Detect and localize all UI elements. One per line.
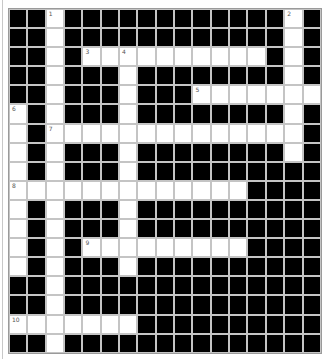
crossword-cell[interactable] bbox=[120, 316, 136, 333]
crossword-cell[interactable] bbox=[83, 316, 99, 333]
crossword-cell[interactable] bbox=[47, 296, 63, 313]
crossword-cell[interactable] bbox=[47, 67, 63, 84]
crossword-cell[interactable] bbox=[285, 105, 301, 122]
block-cell bbox=[10, 296, 26, 313]
crossword-cell[interactable] bbox=[47, 316, 63, 333]
crossword-cell[interactable] bbox=[193, 48, 209, 65]
crossword-cell[interactable] bbox=[212, 182, 228, 199]
crossword-cell[interactable] bbox=[230, 125, 246, 142]
crossword-cell[interactable] bbox=[285, 67, 301, 84]
crossword-cell[interactable] bbox=[175, 125, 191, 142]
crossword-cell[interactable] bbox=[102, 182, 118, 199]
crossword-cell[interactable] bbox=[47, 48, 63, 65]
crossword-cell[interactable]: 8 bbox=[10, 182, 26, 199]
crossword-cell[interactable] bbox=[212, 48, 228, 65]
block-cell bbox=[102, 277, 118, 294]
crossword-cell[interactable] bbox=[285, 125, 301, 142]
block-cell bbox=[304, 125, 320, 142]
crossword-cell[interactable]: 9 bbox=[83, 239, 99, 256]
crossword-cell[interactable] bbox=[248, 125, 264, 142]
crossword-cell[interactable] bbox=[47, 335, 63, 352]
crossword-cell[interactable] bbox=[47, 220, 63, 237]
crossword-cell[interactable] bbox=[304, 86, 320, 103]
crossword-cell[interactable] bbox=[120, 67, 136, 84]
crossword-cell[interactable] bbox=[120, 220, 136, 237]
crossword-cell[interactable] bbox=[47, 105, 63, 122]
crossword-cell[interactable] bbox=[193, 239, 209, 256]
crossword-cell[interactable] bbox=[120, 201, 136, 218]
crossword-cell[interactable] bbox=[102, 316, 118, 333]
crossword-cell[interactable] bbox=[102, 125, 118, 142]
crossword-cell[interactable] bbox=[285, 144, 301, 161]
crossword-cell[interactable] bbox=[120, 144, 136, 161]
crossword-cell[interactable] bbox=[285, 29, 301, 46]
crossword-cell[interactable] bbox=[47, 239, 63, 256]
crossword-cell[interactable] bbox=[47, 201, 63, 218]
crossword-cell[interactable] bbox=[120, 163, 136, 180]
crossword-cell[interactable] bbox=[120, 239, 136, 256]
crossword-cell[interactable] bbox=[83, 125, 99, 142]
crossword-cell[interactable] bbox=[248, 48, 264, 65]
crossword-cell[interactable] bbox=[193, 182, 209, 199]
crossword-cell[interactable] bbox=[10, 258, 26, 275]
crossword-cell[interactable] bbox=[157, 125, 173, 142]
crossword-cell[interactable] bbox=[102, 239, 118, 256]
crossword-cell[interactable] bbox=[157, 239, 173, 256]
crossword-cell[interactable] bbox=[157, 48, 173, 65]
crossword-cell[interactable]: 4 bbox=[120, 48, 136, 65]
crossword-cell[interactable] bbox=[120, 182, 136, 199]
crossword-cell[interactable] bbox=[285, 48, 301, 65]
crossword-cell[interactable] bbox=[10, 125, 26, 142]
crossword-cell[interactable] bbox=[47, 277, 63, 294]
crossword-cell[interactable]: 6 bbox=[10, 105, 26, 122]
crossword-cell[interactable]: 2 bbox=[285, 10, 301, 27]
crossword-cell[interactable] bbox=[47, 163, 63, 180]
crossword-cell[interactable] bbox=[267, 86, 283, 103]
crossword-cell[interactable] bbox=[47, 29, 63, 46]
crossword-cell[interactable] bbox=[212, 125, 228, 142]
crossword-cell[interactable] bbox=[10, 220, 26, 237]
crossword-cell[interactable]: 10 bbox=[10, 316, 26, 333]
crossword-cell[interactable]: 1 bbox=[47, 10, 63, 27]
crossword-cell[interactable] bbox=[230, 48, 246, 65]
crossword-cell[interactable]: 7 bbox=[47, 125, 63, 142]
crossword-cell[interactable] bbox=[157, 182, 173, 199]
crossword-cell[interactable] bbox=[138, 239, 154, 256]
crossword-cell[interactable] bbox=[230, 86, 246, 103]
crossword-cell[interactable] bbox=[193, 125, 209, 142]
crossword-cell[interactable] bbox=[175, 182, 191, 199]
crossword-cell[interactable] bbox=[47, 182, 63, 199]
crossword-cell[interactable] bbox=[10, 144, 26, 161]
crossword-cell[interactable] bbox=[212, 86, 228, 103]
crossword-cell[interactable] bbox=[267, 125, 283, 142]
crossword-cell[interactable] bbox=[175, 48, 191, 65]
crossword-cell[interactable] bbox=[83, 182, 99, 199]
crossword-cell[interactable] bbox=[47, 258, 63, 275]
crossword-cell[interactable] bbox=[138, 182, 154, 199]
crossword-cell[interactable] bbox=[10, 239, 26, 256]
crossword-cell[interactable] bbox=[175, 239, 191, 256]
crossword-cell[interactable] bbox=[230, 182, 246, 199]
crossword-cell[interactable] bbox=[120, 258, 136, 275]
crossword-cell[interactable] bbox=[230, 239, 246, 256]
crossword-cell[interactable] bbox=[138, 125, 154, 142]
crossword-cell[interactable] bbox=[28, 316, 44, 333]
crossword-cell[interactable]: 5 bbox=[193, 86, 209, 103]
crossword-cell[interactable] bbox=[120, 125, 136, 142]
crossword-cell[interactable] bbox=[47, 144, 63, 161]
crossword-cell[interactable] bbox=[65, 316, 81, 333]
crossword-cell[interactable] bbox=[47, 86, 63, 103]
crossword-cell[interactable] bbox=[10, 201, 26, 218]
crossword-cell[interactable] bbox=[102, 48, 118, 65]
crossword-cell[interactable] bbox=[28, 182, 44, 199]
crossword-cell[interactable] bbox=[120, 86, 136, 103]
crossword-cell[interactable] bbox=[212, 239, 228, 256]
crossword-cell[interactable]: 3 bbox=[83, 48, 99, 65]
crossword-cell[interactable] bbox=[285, 86, 301, 103]
crossword-cell[interactable] bbox=[120, 105, 136, 122]
crossword-cell[interactable] bbox=[10, 163, 26, 180]
crossword-cell[interactable] bbox=[248, 86, 264, 103]
crossword-cell[interactable] bbox=[65, 182, 81, 199]
crossword-cell[interactable] bbox=[138, 48, 154, 65]
crossword-cell[interactable] bbox=[65, 125, 81, 142]
